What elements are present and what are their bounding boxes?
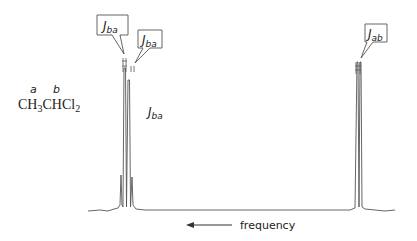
spectrum-trace <box>88 62 395 211</box>
frequency-axis: frequency <box>186 219 296 232</box>
callout-jba-right: Jba <box>135 30 162 63</box>
molecule-formula: a b CH3CHCl2 <box>18 83 80 114</box>
callout-jba-left: Jba <box>97 15 128 54</box>
svg-text:b: b <box>53 83 60 96</box>
nmr-spectrum: Jba Jba Jab Jba a b CH3CHCl2 frequency <box>0 0 417 241</box>
svg-text:a: a <box>30 83 37 96</box>
svg-text:CH3CHCl2: CH3CHCl2 <box>18 97 80 114</box>
jba-label: Jba <box>146 105 163 121</box>
svg-text:frequency: frequency <box>240 219 296 232</box>
callout-jab: Jab <box>361 24 387 58</box>
arrow-left-icon <box>186 222 194 228</box>
coupling-markers <box>122 58 361 74</box>
